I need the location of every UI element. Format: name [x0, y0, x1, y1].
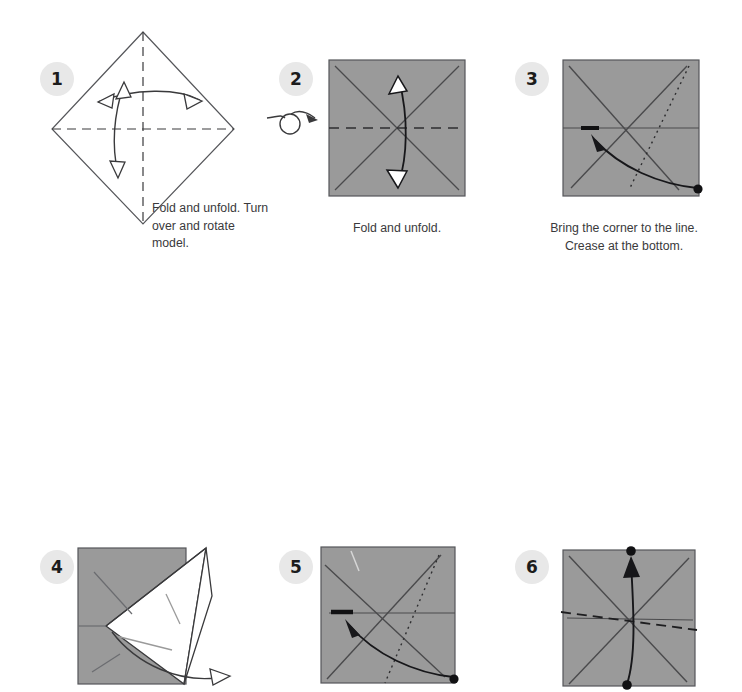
step-9: 9 Fold down. Turn over and repeat.	[497, 490, 742, 692]
step-number-badge-2: 2	[279, 62, 313, 96]
step-3: 3 Bring the corner to the line. Crease a…	[497, 0, 742, 260]
step-8: 8	[247, 490, 497, 692]
step-2-caption: Fold and unfold.	[317, 220, 477, 238]
step-number-badge-3: 3	[515, 62, 549, 96]
step-2-figure	[327, 58, 467, 198]
step-3-figure	[561, 58, 701, 198]
step-5: 5 Repeat steps 3–4.	[247, 260, 497, 490]
step-3-caption: Bring the corner to the line. Crease at …	[529, 220, 719, 255]
step-2: 2 Fold and unfold.	[247, 0, 497, 260]
step-6: 6 The dots will meet.	[497, 260, 742, 490]
step-4: 4 Unfold and rotate model 180°.	[0, 260, 247, 490]
origami-diagram-sheet: 1 Fold and unfold. Turn over and rotate …	[0, 0, 742, 692]
corner-dot	[693, 184, 702, 193]
step-7: 7 Unfold and turn over.	[0, 490, 247, 692]
step-1-figure	[48, 28, 238, 228]
step-1: 1 Fold and unfold. Turn over and rotate …	[0, 0, 247, 260]
turn-over-icon-2	[265, 100, 323, 138]
